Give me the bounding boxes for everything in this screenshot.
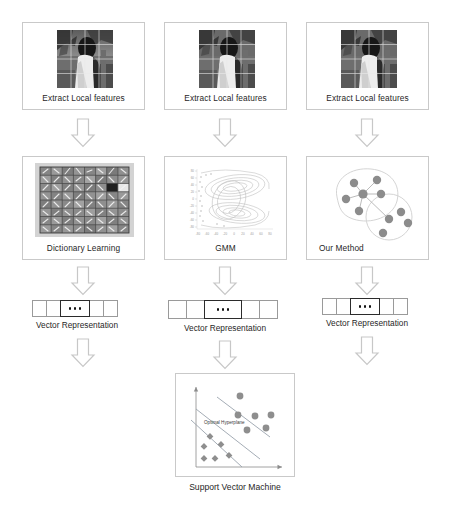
cluster-node (379, 229, 387, 237)
cluster-node (385, 215, 393, 223)
vector-cell-ellipsis (204, 300, 242, 319)
ellipsis-dot (69, 307, 72, 310)
vector-cell (186, 300, 205, 319)
cluster-node (342, 195, 350, 203)
panel-extract-local-features-1: Extract Local features (22, 22, 145, 110)
cluster-node (397, 208, 405, 216)
arrow-extract-to-method-1 (68, 118, 98, 148)
vector-cell (241, 300, 260, 319)
svg-text:80: 80 (268, 232, 272, 236)
cluster-node (377, 190, 385, 198)
svg-text:-20: -20 (190, 204, 195, 208)
input-image-3 (341, 30, 397, 88)
svg-text:-80: -80 (196, 232, 201, 236)
vector-cell (46, 300, 61, 317)
ellipsis-dot (364, 305, 367, 308)
svg-text:20: 20 (241, 232, 245, 236)
gmm-contour-plot: 80 60 40 20 0 -20 -40 -60 -80 -80 -60 -4… (177, 163, 276, 239)
input-image-2 (199, 30, 255, 88)
ellipsis-dot (227, 308, 230, 311)
ellipsis-dot (359, 305, 362, 308)
arrow-method-to-vector-2 (210, 266, 240, 296)
vector-cell (32, 300, 47, 317)
svg-text:-40: -40 (190, 211, 195, 215)
panel-gmm: 80 60 40 20 0 -20 -40 -60 -80 -80 -60 -4… (164, 156, 287, 260)
vector-cell (89, 300, 104, 317)
label-vector-representation-1: Vector Representation (22, 320, 132, 330)
our-method-cluster-graph (315, 161, 425, 243)
panel-label-dictionary-learning: Dictionary Learning (23, 243, 144, 253)
svg-text:40: 40 (250, 232, 254, 236)
arrow-vector-to-svm-2 (210, 340, 240, 370)
cluster-node (373, 176, 381, 184)
arrow-extract-to-method-3 (352, 118, 382, 148)
cluster-node (404, 219, 412, 227)
vector-cell (322, 298, 337, 315)
cluster-node (350, 179, 358, 187)
svg-text:-80: -80 (190, 225, 195, 229)
label-vector-representation-3: Vector Representation (312, 318, 422, 328)
svg-text:20: 20 (191, 190, 195, 194)
svg-text:40: 40 (191, 183, 195, 187)
panel-dictionary-learning: Dictionary Learning (22, 156, 145, 260)
svg-text:-20: -20 (223, 232, 228, 236)
svg-text:60: 60 (259, 232, 263, 236)
panel-support-vector-machine: Optimal Hyperplane (175, 373, 295, 477)
arrow-method-to-vector-3 (352, 266, 382, 296)
panel-label-extract-2: Extract Local features (165, 93, 286, 103)
panel-label-our-method: Our Method (307, 243, 440, 253)
cluster-node (358, 189, 367, 198)
svm-scatter-plot: Optimal Hyperplane (182, 379, 290, 473)
vector-cell (168, 300, 187, 319)
vector-cell (393, 298, 408, 315)
vector-representation-1 (32, 300, 122, 317)
svg-text:-60: -60 (190, 218, 195, 222)
vector-cell (336, 298, 351, 315)
svg-text:-60: -60 (205, 232, 210, 236)
cluster-node (355, 207, 363, 215)
panel-label-extract-1: Extract Local features (23, 93, 144, 103)
panel-extract-local-features-3: Extract Local features (306, 22, 429, 110)
panel-label-extract-3: Extract Local features (307, 93, 428, 103)
vector-representation-3 (322, 298, 412, 315)
arrow-extract-to-method-2 (210, 118, 240, 148)
vector-cell (259, 300, 278, 319)
svg-text:60: 60 (191, 176, 195, 180)
vector-cell (103, 300, 118, 317)
vector-cell (379, 298, 394, 315)
label-support-vector-machine: Support Vector Machine (160, 482, 310, 492)
ellipsis-dot (369, 305, 372, 308)
vector-representation-2 (168, 300, 282, 319)
vector-cell-ellipsis (350, 298, 380, 315)
ellipsis-dot (217, 308, 220, 311)
dictionary-atoms-grid (35, 163, 134, 237)
arrow-vector-to-svm-3 (352, 336, 382, 366)
vector-cell-ellipsis (60, 300, 90, 317)
panel-label-gmm: GMM (165, 243, 286, 253)
arrow-method-to-vector-1 (68, 266, 98, 296)
input-image-1 (57, 30, 113, 88)
diagram-canvas: Extract Local features (0, 0, 451, 507)
svg-text:-40: -40 (214, 232, 219, 236)
arrow-vector-to-svm-1 (68, 338, 98, 368)
ellipsis-dot (222, 308, 225, 311)
ellipsis-dot (79, 307, 82, 310)
ellipsis-dot (74, 307, 77, 310)
optimal-hyperplane-annotation: Optimal Hyperplane (204, 420, 245, 425)
panel-extract-local-features-2: Extract Local features (164, 22, 287, 110)
panel-our-method: Our Method (306, 156, 429, 260)
label-vector-representation-2: Vector Representation (170, 323, 280, 333)
svg-text:80: 80 (191, 169, 195, 173)
